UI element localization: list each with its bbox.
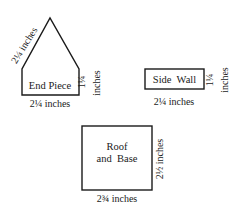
side-wall-label: Side Wall [153, 74, 196, 85]
end-piece: End Piece 2¼ inches 1¼ inches 2¼ inches [9, 18, 102, 109]
roof-and-base-label-line1: Roof [107, 141, 129, 152]
roof-and-base: Roof and Base 2½ inches 2¾ inches [82, 126, 165, 204]
end-piece-height-value: 1¼ [76, 75, 87, 88]
roof-and-base-label-line2: and Base [97, 153, 138, 164]
side-wall-height-unit: inches [219, 67, 230, 93]
roof-and-base-width-dimension: 2¾ inches [97, 193, 138, 204]
side-wall: Side Wall 1¼ inches 2¼ inches [145, 67, 230, 107]
pattern-diagram: End Piece 2¼ inches 1¼ inches 2¼ inches … [0, 0, 242, 210]
end-piece-width-dimension: 2¼ inches [30, 98, 71, 109]
end-piece-height-unit: inches [91, 70, 102, 96]
roof-and-base-height-dimension: 2½ inches [154, 139, 165, 180]
side-wall-width-dimension: 2¼ inches [154, 96, 195, 107]
end-piece-label: End Piece [29, 80, 72, 91]
side-wall-height-value: 1¼ [204, 73, 215, 86]
